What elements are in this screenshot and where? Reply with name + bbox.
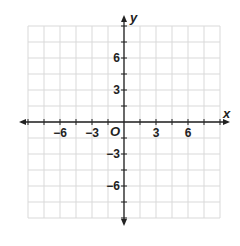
y-axis-down-arrow-icon — [121, 219, 127, 226]
axes — [19, 15, 230, 226]
y-axis-up-arrow-icon — [121, 15, 127, 22]
x-tick-label: 3 — [153, 126, 160, 140]
y-tick-label: −6 — [106, 179, 120, 193]
y-tick-label: 6 — [113, 51, 120, 65]
x-tick-label: 6 — [185, 126, 192, 140]
x-tick-label: −6 — [53, 126, 67, 140]
y-tick-label: 3 — [113, 83, 120, 97]
x-tick-label: −3 — [85, 126, 99, 140]
x-axis-left-arrow-icon — [19, 119, 26, 125]
y-tick-label: −3 — [106, 147, 120, 161]
coordinate-plane: −6−33663−3−6 x y O — [0, 0, 240, 246]
origin-label: O — [110, 124, 120, 139]
x-axis-label: x — [222, 106, 231, 121]
y-axis-label: y — [129, 10, 138, 25]
